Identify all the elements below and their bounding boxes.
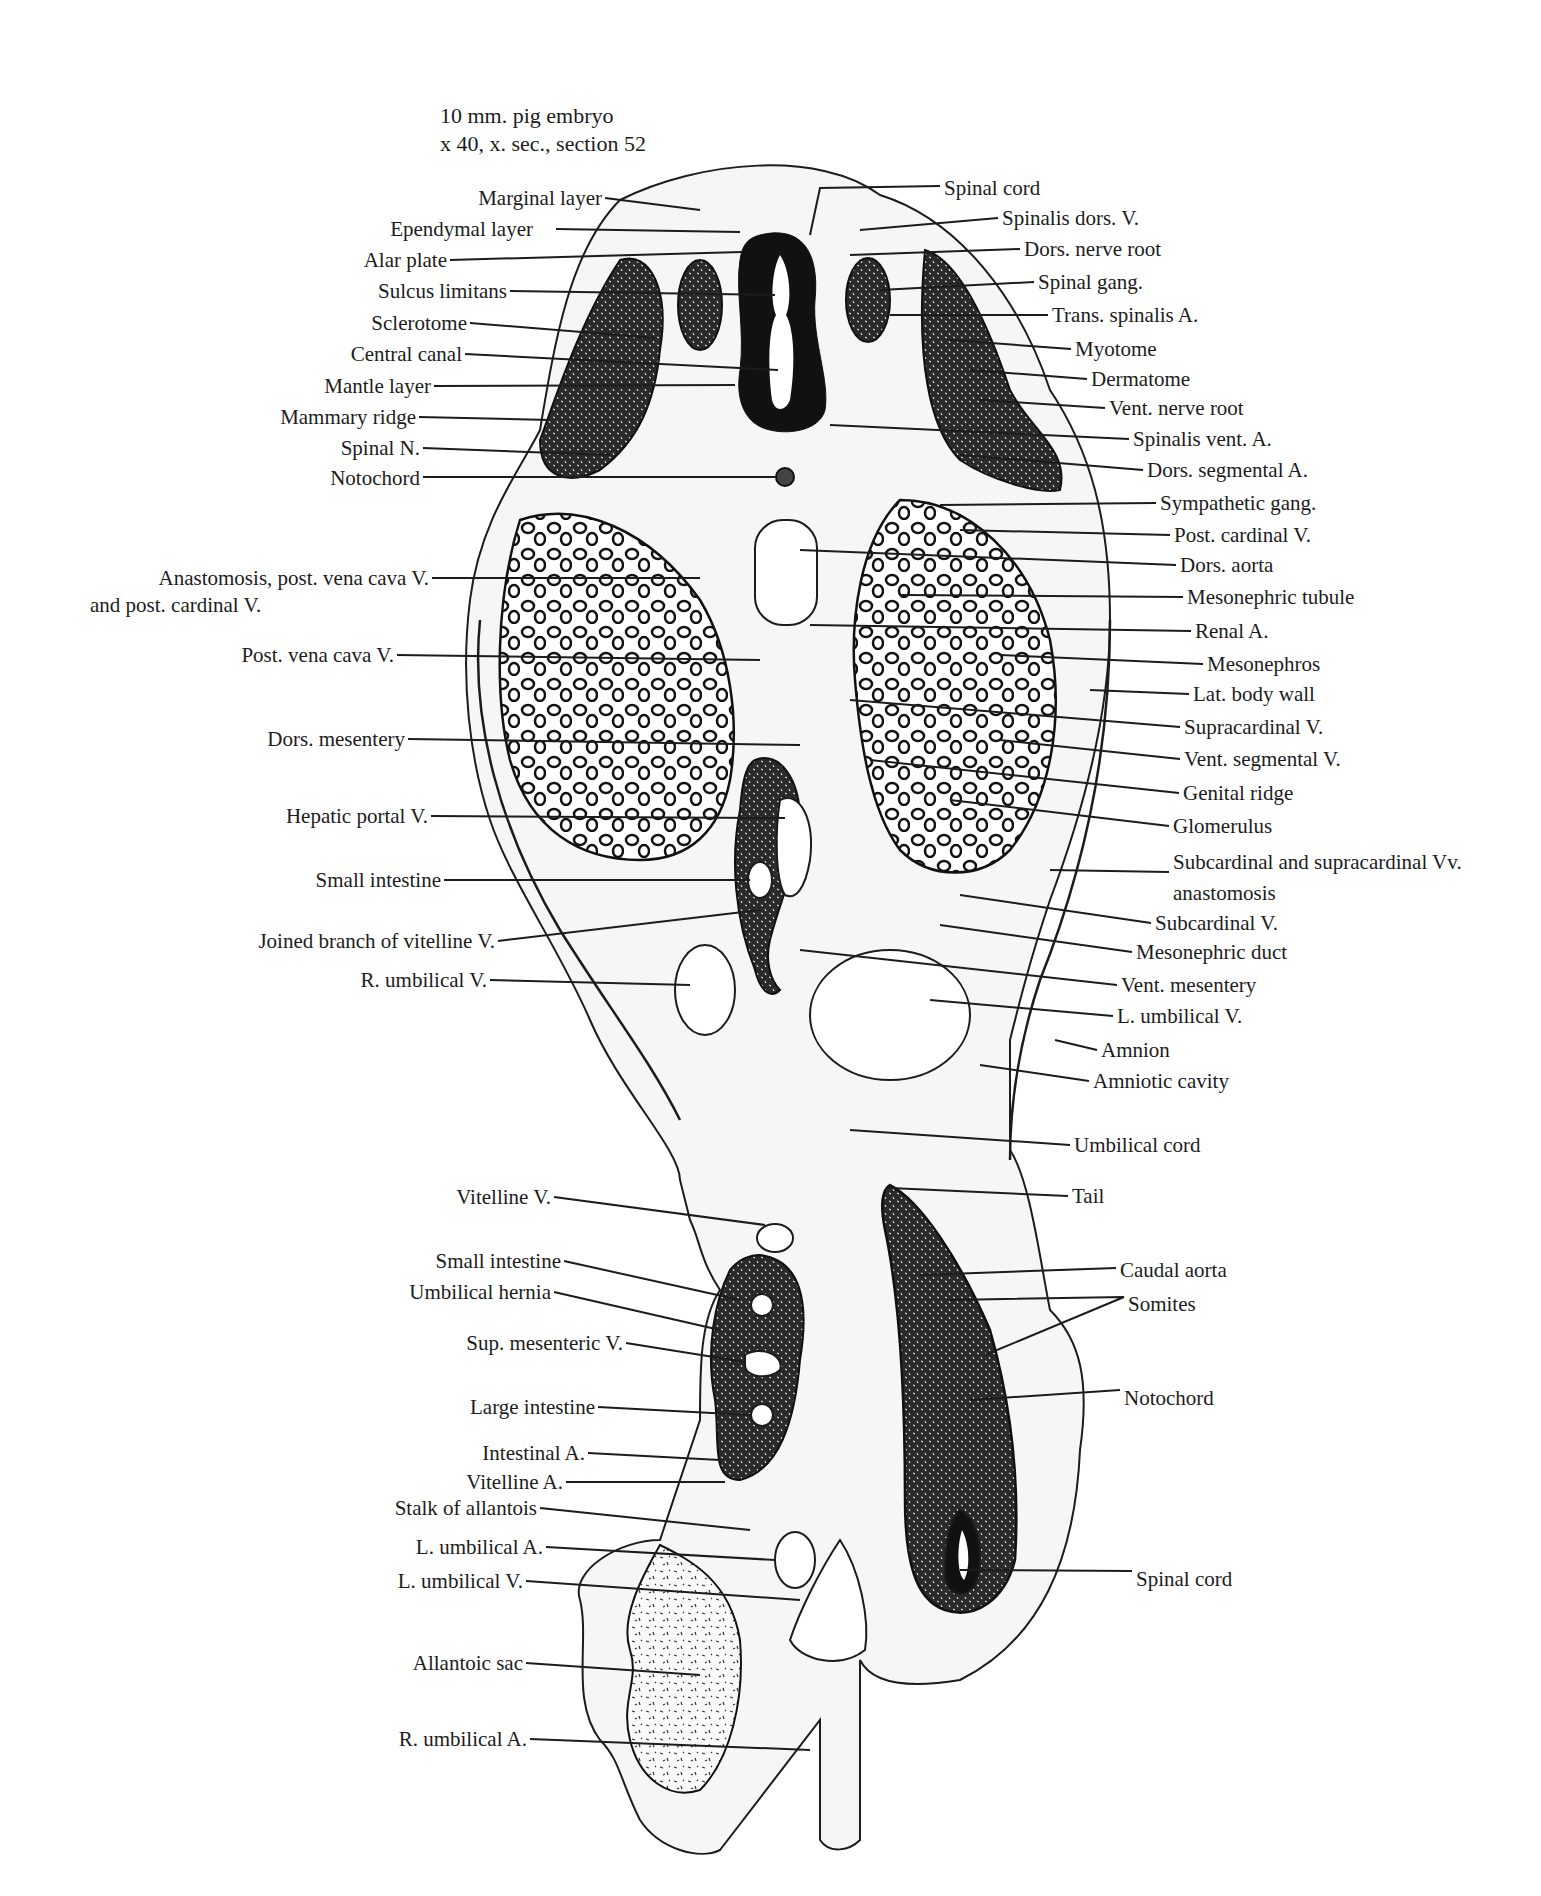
anatomy-label-left: Central canal [351, 342, 462, 366]
anatomy-label-right: Mesonephros [1207, 652, 1320, 676]
anatomy-label-left: Alar plate [364, 248, 447, 272]
anatomy-label-left: R. umbilical V. [361, 968, 487, 992]
anatomy-label-left: Ependymal layer [390, 217, 533, 241]
anatomy-label-right: Myotome [1075, 337, 1157, 361]
anatomy-label-right: Amniotic cavity [1093, 1069, 1229, 1093]
anatomy-label-right: Spinal cord [944, 176, 1040, 200]
anatomy-label-right: Trans. spinalis A. [1052, 303, 1198, 327]
dorsal-aorta [755, 520, 817, 625]
embryo-section-illustration [0, 0, 1541, 1896]
left-umbilical-artery [775, 1532, 815, 1588]
anatomy-label-right: Tail [1072, 1184, 1104, 1208]
anatomy-label-right: Subcardinal and supracardinal Vv. [1173, 850, 1462, 874]
anatomy-label-right: Mesonephric duct [1136, 940, 1287, 964]
anatomy-label-left: Joined branch of vitelline V. [258, 929, 495, 953]
anatomy-label-right: Sympathetic gang. [1160, 491, 1316, 515]
anatomy-label-right: Renal A. [1195, 619, 1269, 643]
anatomy-label-left: Spinal N. [341, 436, 420, 460]
anatomy-label-right: anastomosis [1173, 881, 1276, 905]
anatomy-label-right: Genital ridge [1183, 781, 1293, 805]
anatomy-label-left: Anastomosis, post. vena cava V. [159, 566, 429, 590]
anatomy-label-right: Glomerulus [1173, 814, 1272, 838]
anatomy-label-right: Notochord [1124, 1386, 1214, 1410]
anatomy-label-left: Hepatic portal V. [286, 804, 428, 828]
right-umbilical-vein [675, 945, 735, 1035]
anatomy-label-left: Sup. mesenteric V. [466, 1331, 623, 1355]
anatomy-label-right: Spinalis vent. A. [1133, 427, 1272, 451]
anatomy-label-left: Vitelline A. [466, 1470, 563, 1494]
anatomy-label-right: Subcardinal V. [1155, 911, 1278, 935]
anatomy-label-right: Spinal cord [1136, 1567, 1232, 1591]
anatomy-label-left: Intestinal A. [482, 1441, 585, 1465]
anatomy-label-right: Spinal gang. [1038, 270, 1143, 294]
anatomy-label-left: Mantle layer [324, 374, 431, 398]
anatomy-label-right: Dors. segmental A. [1147, 458, 1308, 482]
anatomy-label-right: Vent. mesentery [1121, 973, 1256, 997]
anatomy-label-right: Vent. segmental V. [1184, 747, 1341, 771]
anatomy-label-right: Dors. aorta [1180, 553, 1273, 577]
large-intestine-lumen [751, 1404, 773, 1426]
anatomy-label-right: Somites [1128, 1292, 1196, 1316]
small-intestine-lumen-lower [751, 1294, 773, 1316]
anatomy-label-left: Large intestine [470, 1395, 595, 1419]
anatomy-label-left: Umbilical hernia [409, 1280, 551, 1304]
anatomy-label-right: Dermatome [1091, 367, 1190, 391]
anatomy-label-left: Vitelline V. [456, 1185, 551, 1209]
anatomy-label-right: L. umbilical V. [1117, 1004, 1242, 1028]
anatomy-label-right: Post. cardinal V. [1174, 523, 1311, 547]
spinal-ganglion-right [846, 258, 890, 342]
anatomy-label-left: and post. cardinal V. [90, 593, 261, 617]
anatomy-label-right: Supracardinal V. [1184, 715, 1323, 739]
vitelline-vein [757, 1224, 793, 1252]
anatomy-label-right: Lat. body wall [1193, 682, 1315, 706]
left-umbilical-vein [810, 950, 970, 1080]
anatomy-label-left: Sclerotome [371, 311, 467, 335]
anatomy-label-left: Allantoic sac [413, 1651, 523, 1675]
anatomy-label-right: Umbilical cord [1074, 1133, 1201, 1157]
anatomy-label-left: Small intestine [436, 1249, 561, 1273]
notochord [776, 468, 794, 486]
anatomy-label-right: Vent. nerve root [1109, 396, 1244, 420]
anatomy-label-left: L. umbilical A. [416, 1535, 543, 1559]
anatomy-label-left: Dors. mesentery [267, 727, 405, 751]
anatomy-label-left: Post. vena cava V. [241, 643, 394, 667]
anatomy-label-left: Marginal layer [478, 186, 602, 210]
small-intestine-lumen [748, 862, 772, 898]
anatomy-label-right: Spinalis dors. V. [1002, 206, 1139, 230]
spinal-ganglion-left [678, 260, 722, 350]
anatomy-label-left: Notochord [330, 466, 420, 490]
anatomy-label-right: Amnion [1101, 1038, 1170, 1062]
anatomy-label-left: L. umbilical V. [398, 1569, 523, 1593]
anatomy-label-right: Mesonephric tubule [1187, 585, 1354, 609]
anatomy-label-left: Mammary ridge [280, 405, 416, 429]
anatomy-label-right: Dors. nerve root [1024, 237, 1161, 261]
anatomy-label-left: Sulcus limitans [378, 279, 507, 303]
anatomy-label-left: R. umbilical A. [399, 1727, 527, 1751]
anatomy-label-left: Stalk of allantois [395, 1496, 537, 1520]
anatomy-label-right: Caudal aorta [1120, 1258, 1227, 1282]
anatomy-label-left: Small intestine [316, 868, 441, 892]
